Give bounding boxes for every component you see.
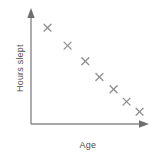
data-point-marker xyxy=(82,58,89,65)
data-point-marker xyxy=(96,73,103,80)
x-axis-label: Age xyxy=(80,141,97,150)
scatter-plot-figure: Hours slept Age xyxy=(0,0,163,161)
data-point-markers xyxy=(44,24,143,115)
data-point-marker xyxy=(64,42,71,49)
x-axis-arrowhead xyxy=(139,120,149,127)
y-axis-label: Hours slept xyxy=(16,44,25,92)
data-point-marker xyxy=(136,108,143,115)
y-axis-arrowhead xyxy=(27,8,34,18)
data-point-marker xyxy=(44,24,51,31)
data-point-marker xyxy=(123,98,130,105)
data-point-marker xyxy=(110,86,117,93)
